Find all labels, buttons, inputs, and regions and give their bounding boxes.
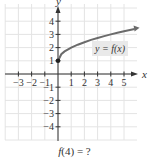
x-tick-label: 1: [69, 77, 74, 88]
x-tick-label: 4: [108, 77, 113, 88]
question-text: f(4) = ?: [0, 145, 149, 157]
x-axis-arrow-icon: [131, 72, 138, 77]
x-tick-label: −3: [13, 77, 24, 88]
y-tick-label: −4: [43, 121, 54, 132]
y-axis-arrow-icon: [56, 6, 61, 13]
y-tick-label: −1: [43, 82, 54, 93]
y-tick-label: 4: [49, 16, 54, 27]
graph: xy −3−2−112345−4−3−2−11234 y = f(x): [0, 0, 149, 159]
x-tick-label: 2: [82, 77, 87, 88]
y-tick-label: 2: [49, 42, 54, 53]
x-tick-label: 3: [95, 77, 100, 88]
start-point: [56, 59, 61, 64]
x-tick-label: −2: [26, 77, 37, 88]
question-argument: (4): [61, 145, 74, 157]
y-axis-label: y: [55, 0, 61, 7]
y-tick-label: 1: [49, 55, 54, 66]
curve-label: y = f(x): [94, 43, 126, 55]
x-tick-label: 5: [122, 77, 127, 88]
question-rest: = ?: [74, 145, 91, 157]
curve-arrow-icon: [134, 25, 140, 31]
y-tick-label: −2: [43, 95, 54, 106]
x-axis-label: x: [141, 68, 147, 80]
y-tick-label: 3: [49, 29, 54, 40]
y-tick-label: −3: [43, 108, 54, 119]
